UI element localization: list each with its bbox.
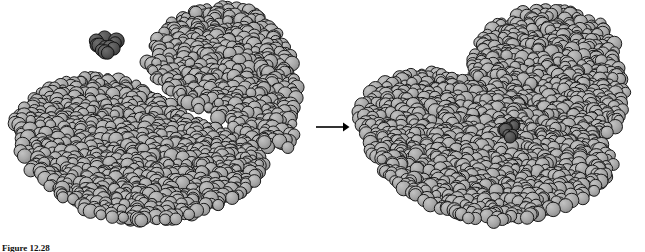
closed-conformation-panel	[350, 0, 645, 230]
transition-arrow	[310, 114, 354, 140]
open-conformation-molecule	[0, 0, 312, 230]
protein-space-filling-model	[352, 4, 631, 229]
protein-space-filling-model	[8, 1, 304, 227]
open-conformation-panel	[0, 0, 312, 230]
figure-caption-label: Figure	[2, 243, 27, 252]
figure-caption-number: 12.28	[30, 243, 50, 252]
free-substrate-cluster	[89, 31, 124, 59]
figure-canvas: Figure 12.28	[0, 0, 645, 252]
closed-conformation-molecule	[350, 0, 645, 230]
figure-caption: Figure 12.28	[2, 243, 642, 252]
arrow-icon	[310, 114, 354, 140]
